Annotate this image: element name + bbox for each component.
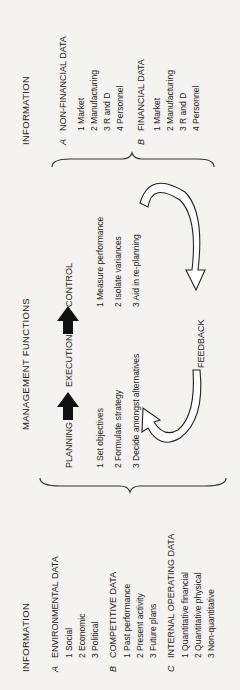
feedback-arrow-icon [142, 370, 201, 442]
right-brace-icon [52, 153, 214, 167]
arrow-right-icon [57, 392, 79, 420]
feedback-arrow-icon [140, 183, 205, 290]
diagram-stage: INFORMATION AENVIRONMENTAL DATA 1 Social… [0, 0, 240, 690]
diagram-graphics [0, 0, 240, 690]
left-brace-icon [40, 478, 226, 492]
arrow-right-icon [57, 306, 79, 334]
